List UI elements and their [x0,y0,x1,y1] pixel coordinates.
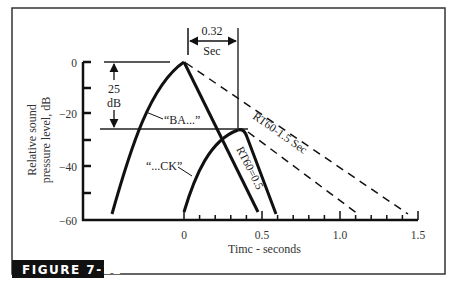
x-tick-labels: 0 0.5 1.0 1.5 [181,229,425,241]
delay-dimension-unit: Sec [203,44,220,58]
y-tick-labels: 0 −20 −40 −60 [59,57,77,227]
xtick-1-5: 1.5 [411,229,426,241]
xtick-0: 0 [181,229,187,241]
rt60-long-label: RT60-1.5 Sec [251,110,310,156]
level-dimension-value: 25 [108,82,120,96]
ba-buildup-curve [112,62,184,214]
figure-7-12: FIGURE 7-12 0 −20 −40 −60 Relative sound… [0,0,452,292]
x-axis-label: Timc - seconds [228,242,301,256]
ylabel-line-2: pressure level, dB [39,97,53,183]
x-axis [82,211,418,220]
figure-border [12,8,445,274]
ytick-minus-40: −40 [59,161,77,173]
y-axis [83,62,91,221]
y-axis-label: Relative sound pressure level, dB [25,97,53,183]
ytick-0: 0 [71,57,77,69]
xtick-0-5: 0.5 [255,229,270,241]
ytick-minus-60: −60 [59,215,77,227]
delay-dimension-value: 0.32 [202,24,223,38]
rt60-short-label: RT60=0.5 [234,144,266,191]
ba-label: “BA...” [164,113,200,127]
xtick-1-0: 1.0 [333,229,348,241]
ck-buildup-curve [184,130,238,212]
level-dimension-unit: dB [107,96,121,110]
figure-label: FIGURE 7-12 [22,263,122,277]
ytick-minus-20: −20 [59,108,77,120]
ck-label: “...CK” [146,159,182,173]
ylabel-line-1: Relative sound [25,104,39,176]
ba-leader-line [146,112,163,119]
